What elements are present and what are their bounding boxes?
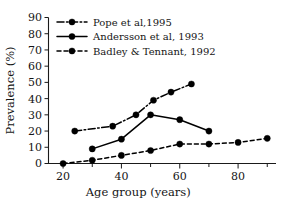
- series-point-2: [89, 157, 95, 163]
- y-tick-label: 70: [28, 44, 42, 57]
- series-point-2: [264, 135, 270, 141]
- series-point-1: [147, 112, 153, 118]
- y-tick-label: 60: [28, 60, 42, 73]
- y-tick-label: 30: [28, 109, 42, 122]
- series-point-0: [150, 97, 156, 103]
- y-tick-label: 90: [28, 11, 42, 24]
- x-tick-label: 60: [173, 170, 187, 183]
- chart-figure: 010203040506070809020406080 Pope et al,1…: [0, 0, 288, 202]
- series-point-2: [118, 152, 124, 158]
- x-tick-label: 80: [231, 170, 245, 183]
- legend-marker-1: [69, 33, 75, 39]
- y-tick-label: 10: [28, 141, 42, 154]
- series-point-0: [72, 128, 78, 134]
- x-tick-label: 20: [56, 170, 70, 183]
- series-point-1: [177, 117, 183, 123]
- data-series: [60, 81, 270, 167]
- y-tick-label: 0: [35, 157, 42, 170]
- legend-marker-0: [69, 19, 75, 25]
- legend-label-0: Pope et al,1995: [93, 17, 172, 28]
- y-tick-label: 50: [28, 76, 42, 89]
- legend-label-2: Badley & Tennant, 1992: [93, 46, 216, 57]
- series-point-2: [235, 139, 241, 145]
- series-point-1: [118, 136, 124, 142]
- x-axis-title: Age group (years): [85, 185, 191, 199]
- series-point-1: [89, 146, 95, 152]
- series-point-0: [133, 112, 139, 118]
- series-point-0: [188, 81, 194, 87]
- series-point-2: [147, 147, 153, 153]
- legend-label-1: Andersson et al, 1993: [92, 31, 204, 42]
- series-point-0: [168, 89, 174, 95]
- series-point-2: [206, 141, 212, 147]
- series-point-0: [110, 123, 116, 129]
- prevalence-line-chart: 010203040506070809020406080 Pope et al,1…: [0, 0, 288, 202]
- y-axis-title: Prevalence (%): [3, 46, 17, 134]
- y-tick-label: 20: [28, 125, 42, 138]
- series-point-2: [60, 160, 66, 166]
- legend-marker-2: [69, 48, 75, 54]
- chart-legend: Pope et al,1995Andersson et al, 1993Badl…: [57, 17, 216, 57]
- x-tick-label: 40: [114, 170, 128, 183]
- series-point-1: [206, 128, 212, 134]
- series-point-2: [177, 141, 183, 147]
- y-tick-label: 80: [28, 28, 42, 41]
- y-tick-label: 40: [28, 93, 42, 106]
